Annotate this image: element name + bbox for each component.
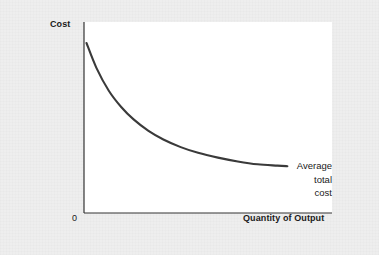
curve-annotation-line-2: total	[262, 173, 332, 187]
average-total-cost-curve	[86, 43, 287, 166]
y-axis-title: Cost	[50, 19, 70, 29]
cost-curve-figure: Cost Quantity of Output 0 Average total …	[0, 0, 379, 255]
curve-annotation-line-1: Average	[262, 159, 332, 173]
origin-tick-label: 0	[72, 213, 77, 223]
x-axis-title: Quantity of Output	[243, 213, 324, 223]
curve-annotation-label: Average total cost	[262, 159, 332, 200]
series-group	[86, 43, 287, 166]
curve-annotation-line-3: cost	[262, 186, 332, 200]
